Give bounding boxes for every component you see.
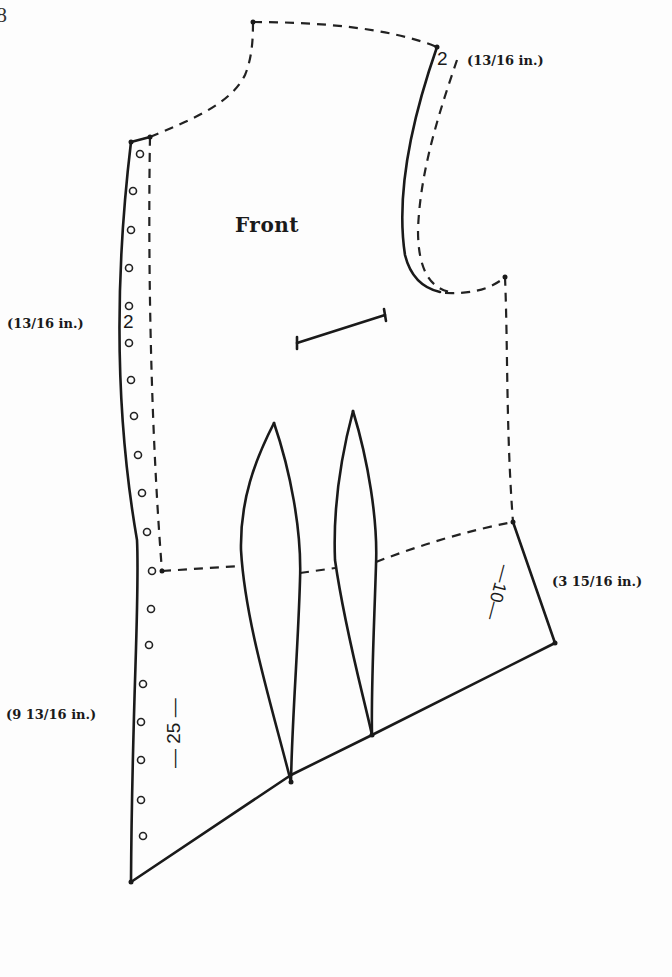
shoulder-measure-inches: (13/16 in.) — [467, 53, 544, 68]
center-front-lower-inches: (9 13/16 in.) — [6, 707, 96, 722]
side-seam-line — [505, 277, 513, 522]
hem-line-3 — [372, 643, 555, 735]
center-front-top — [131, 137, 150, 142]
welt-pocket-end-right — [384, 309, 386, 321]
shoulder-measure-number: 2 — [437, 48, 448, 70]
center-front-lower-number: — 25 — — [163, 698, 185, 768]
waistline-segment-1 — [162, 566, 240, 571]
side-peplum-inches: (3 15/16 in.) — [552, 574, 642, 589]
armhole-seam-line — [418, 60, 457, 293]
welt-pocket-line — [297, 315, 385, 343]
center-front-upper-number: 2 — [123, 311, 134, 333]
waistline-segment-2 — [300, 568, 335, 573]
center-front-seam-line — [149, 137, 162, 571]
seam-allowance-dashed-lines — [149, 22, 513, 573]
hem-line-1 — [131, 775, 291, 882]
piece-label: Front — [235, 213, 299, 237]
center-front-upper-inches: (13/16 in.) — [7, 316, 84, 331]
dart-1-left — [241, 423, 291, 782]
dart-2-right — [353, 411, 376, 735]
center-front-edge — [119, 142, 137, 882]
shoulder-line — [253, 22, 437, 47]
hem-line-2 — [291, 735, 372, 775]
front-bodice-pattern — [0, 0, 672, 977]
pattern-canvas: 8 — [0, 0, 672, 977]
neckline-line — [150, 22, 253, 137]
side-peplum-edge — [513, 522, 555, 643]
waistline-segment-3 — [376, 522, 513, 562]
underarm-line — [445, 277, 505, 293]
